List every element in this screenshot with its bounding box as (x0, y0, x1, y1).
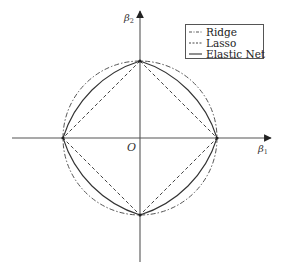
origin-label: O (127, 141, 136, 154)
beta2-label: β2 (123, 12, 134, 25)
legend: Ridge Lasso Elastic Net (186, 25, 266, 60)
svg-text:Elastic Net: Elastic Net (206, 48, 266, 60)
beta1-label: β1 (257, 143, 268, 156)
regularization-constraint-diagram: O β1 β2 Ridge Lasso Elastic Net (0, 0, 282, 271)
